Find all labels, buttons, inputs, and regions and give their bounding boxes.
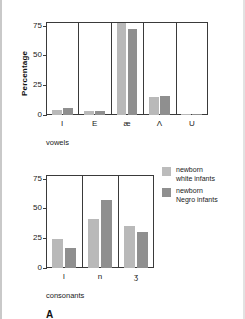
consonants-y-tick-label: 25	[22, 233, 42, 242]
bar-vowels-I-series1	[52, 110, 62, 115]
consonants-y-tick-mark	[43, 268, 47, 269]
vowels-x-tick-label: U	[176, 119, 208, 128]
bar-vowels-U-series1	[181, 114, 191, 115]
consonants-y-tick-label: 75	[22, 174, 42, 183]
bar-consonants-l-series1	[52, 239, 63, 268]
bar-vowels-æ-series1	[117, 23, 127, 115]
consonants-y-tick-label: 50	[22, 203, 42, 212]
vowels-x-tick-label: æ	[111, 119, 143, 128]
consonants-y-tick-label: 0	[22, 263, 42, 272]
vowels-y-tick-mark	[43, 26, 47, 27]
bar-vowels-E-series2	[95, 111, 105, 115]
vowels-group-separator	[111, 22, 112, 115]
bar-consonants-ʒ-series2	[137, 232, 148, 268]
vowels-y-tick-label: 50	[22, 50, 42, 59]
vowels-y-tick-mark	[43, 55, 47, 56]
figure-panel-a: Percentage vowels 0255075IEæΛU newborn w…	[0, 0, 245, 319]
vowels-group-separator	[78, 22, 79, 115]
vowels-chart-panel: Percentage vowels 0255075IEæΛU	[0, 0, 245, 155]
bar-consonants-l-series2	[65, 248, 76, 268]
consonants-group-separator	[82, 175, 83, 268]
bar-vowels-E-series1	[84, 111, 94, 115]
consonants-y-tick-mark	[43, 179, 47, 180]
consonants-x-tick-label: n	[82, 272, 118, 281]
bar-vowels-Λ-series2	[160, 96, 170, 115]
consonants-x-axis-title: consonants	[46, 291, 84, 300]
vowels-x-tick-label: E	[78, 119, 110, 128]
vowels-x-tick-label: I	[46, 119, 78, 128]
vowels-group-separator	[176, 22, 177, 115]
bar-consonants-n-series2	[101, 200, 112, 268]
consonants-x-tick-label: l	[46, 272, 82, 281]
vowels-y-tick-label: 0	[22, 110, 42, 119]
consonants-group-separator	[118, 175, 119, 268]
consonants-x-tick-label: ʒ	[118, 272, 154, 281]
panel-label-a: A	[46, 309, 53, 319]
bar-vowels-Λ-series1	[149, 97, 159, 115]
bar-consonants-ʒ-series1	[124, 226, 135, 268]
bar-vowels-U-series2	[192, 114, 202, 115]
vowels-y-tick-label: 75	[22, 21, 42, 30]
vowels-y-tick-mark	[43, 85, 47, 86]
bar-vowels-æ-series2	[128, 29, 138, 115]
vowels-y-tick-mark	[43, 115, 47, 116]
consonants-y-tick-mark	[43, 238, 47, 239]
consonants-y-tick-mark	[43, 208, 47, 209]
vowels-x-tick-label: Λ	[143, 119, 175, 128]
vowels-group-separator	[143, 22, 144, 115]
consonants-chart-panel: consonants A 0255075lnʒ	[0, 163, 245, 319]
vowels-x-axis-title: vowels	[46, 138, 69, 147]
vowels-y-tick-label: 25	[22, 80, 42, 89]
bar-vowels-I-series2	[63, 108, 73, 115]
bar-consonants-n-series1	[88, 219, 99, 268]
